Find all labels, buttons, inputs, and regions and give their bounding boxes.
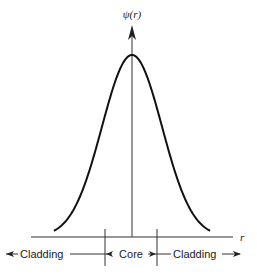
cladding-right-label: Cladding [173,248,216,260]
psi-axis-label: ψ(r) [123,8,142,21]
region-cladding-right: Cladding [157,248,241,260]
cladding-left-label: Cladding [20,248,63,260]
fiber-mode-diagram: r ψ(r) Cladding Core Cladding [0,0,257,274]
core-label: Core [119,248,143,260]
region-core: Core [105,248,157,260]
r-axis-label: r [240,231,245,243]
region-cladding-left: Cladding [6,248,105,260]
